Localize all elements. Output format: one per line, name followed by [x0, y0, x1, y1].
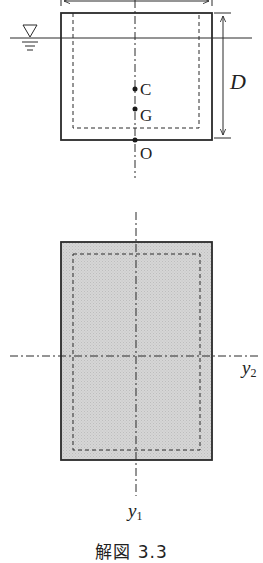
axis-y1-label: y1: [126, 500, 142, 523]
body-outline-elevation: [61, 13, 212, 140]
point-o-marker: [133, 138, 138, 143]
point-g-marker: [133, 107, 138, 112]
elevation-view: C G O D: [10, 0, 252, 178]
point-c-label: C: [140, 80, 151, 99]
depth-label: D: [229, 69, 246, 94]
point-g-label: G: [140, 106, 152, 125]
top-dimension-line: [61, 0, 212, 6]
point-c-marker: [133, 87, 138, 92]
depth-dimension-line: [214, 13, 231, 138]
point-o-label: O: [140, 144, 152, 163]
axis-y2-label: y2: [240, 357, 256, 380]
plan-view: y2 y1: [10, 212, 261, 523]
figure-caption: 解図 3.3: [0, 538, 263, 563]
